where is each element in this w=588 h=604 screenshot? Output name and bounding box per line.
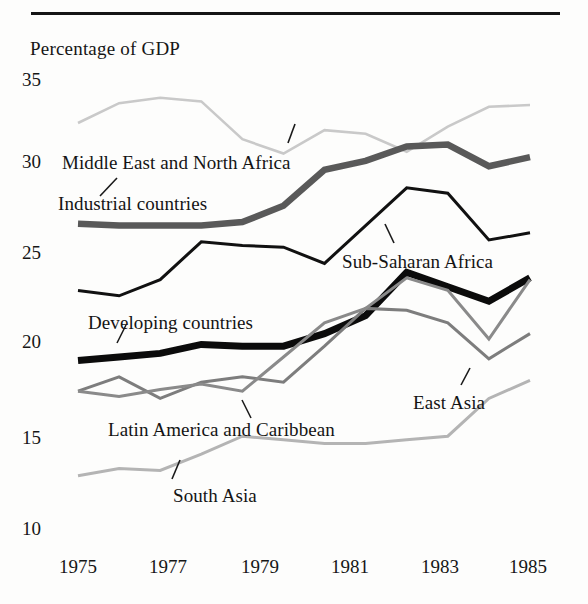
series-label-east-asia: East Asia <box>413 392 485 414</box>
leader-eastasia <box>461 368 470 385</box>
series-label-sub-saharan-africa: Sub-Saharan Africa <box>342 251 493 273</box>
chart-figure: Percentage of GDP 353025201510 197519771… <box>0 0 588 604</box>
leader-mena <box>288 124 295 143</box>
leader-latinamerica <box>242 400 251 418</box>
series-label-south-asia: South Asia <box>173 485 257 507</box>
series-line-middle-east-and-north-africa <box>78 98 530 154</box>
series-label-middle-east-and-north-africa: Middle East and North Africa <box>62 152 291 174</box>
plot-area <box>0 0 588 604</box>
series-label-developing-countries: Developing countries <box>88 312 253 334</box>
series-label-industrial-countries: Industrial countries <box>58 193 207 215</box>
leader-subsaharan <box>385 224 394 243</box>
series-label-latin-america-and-caribbean: Latin America and Caribbean <box>108 419 335 441</box>
